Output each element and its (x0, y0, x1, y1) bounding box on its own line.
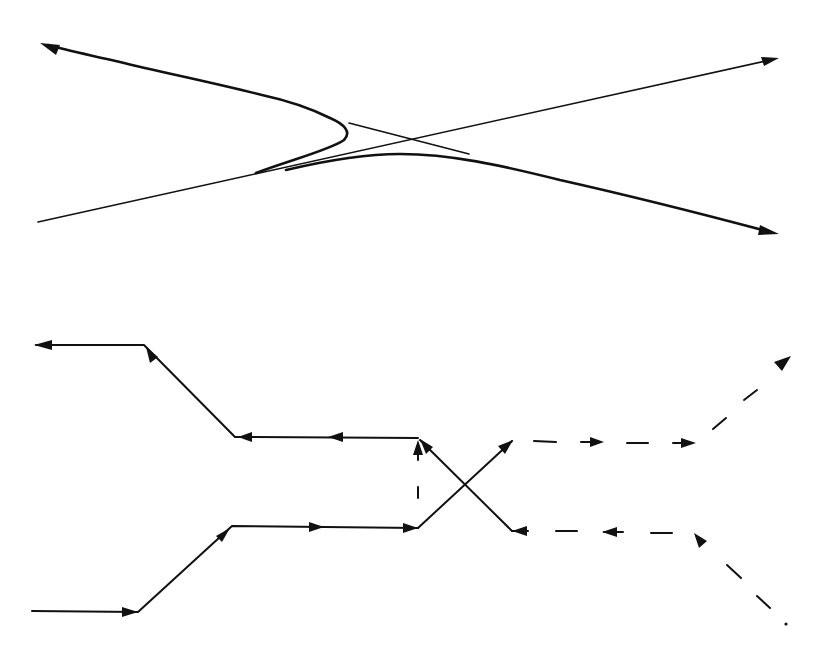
lower-path (32, 526, 418, 612)
upper-trajectory (48, 45, 347, 173)
arrowhead-icon (309, 522, 324, 532)
arrowhead-icon (761, 57, 779, 66)
top-panel (38, 43, 779, 235)
arrowhead-icon (758, 225, 779, 235)
arrowhead-icon (40, 43, 60, 55)
dashed-end-dot (784, 622, 787, 625)
arrowhead-icon (774, 356, 791, 371)
dashed-segment (744, 390, 757, 400)
arrowhead-icon (34, 340, 52, 350)
arrowhead-icon (328, 432, 343, 442)
dashed-segment (713, 418, 726, 429)
lower-trajectory (286, 154, 770, 232)
arrowhead-icon (146, 347, 158, 363)
arrowhead-icon (590, 437, 604, 447)
bottom-panel (32, 340, 791, 626)
arrowhead-icon (122, 607, 138, 617)
dashed-segment (534, 441, 556, 442)
dashed-segment (757, 596, 770, 608)
arrowhead-icon (512, 526, 527, 536)
arrowhead-icon (694, 533, 707, 548)
arrowhead-icon (681, 438, 696, 448)
asymptote-line-rising (38, 60, 770, 222)
dashed-segment (727, 565, 741, 578)
upper-path (36, 345, 418, 438)
arrowhead-icon (238, 432, 252, 442)
arrowhead-icon (403, 523, 418, 533)
diagram-canvas (0, 0, 831, 657)
arrowhead-icon (602, 527, 617, 537)
